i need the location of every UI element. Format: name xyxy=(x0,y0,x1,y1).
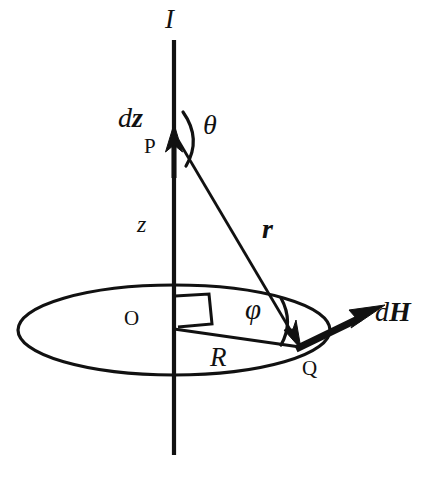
phi-angle-label: φ xyxy=(245,295,261,324)
distance-r-label: r xyxy=(262,215,273,243)
dz-vector-arrow xyxy=(166,124,183,178)
point-p-label: P xyxy=(144,136,156,157)
dH-d-part: d xyxy=(375,296,389,327)
theta-angle-label: θ xyxy=(203,111,217,139)
r-vector xyxy=(178,140,301,349)
origin-label: O xyxy=(124,308,139,329)
dH-vector-arrow xyxy=(296,305,385,349)
dH-field-label: dH xyxy=(375,298,411,326)
radius-label: R xyxy=(210,344,227,371)
dz-z-part: z xyxy=(132,102,143,133)
diagram-canvas xyxy=(0,0,425,480)
physics-diagram-figure: I dz P θ z r O R φ Q dH xyxy=(0,0,425,480)
point-q-label: Q xyxy=(302,358,317,379)
dH-h-part: H xyxy=(389,296,411,327)
right-angle-marker xyxy=(175,294,212,327)
dz-element-label: dz xyxy=(118,104,143,132)
dz-d-part: d xyxy=(118,102,132,133)
current-label: I xyxy=(165,6,174,33)
height-z-label: z xyxy=(137,212,146,236)
